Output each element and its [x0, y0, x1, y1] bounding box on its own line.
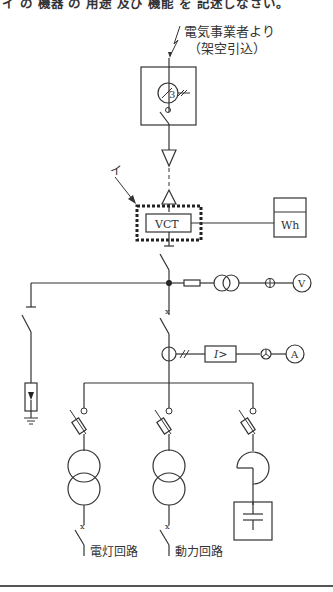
feeder-capacitor: [234, 383, 272, 540]
vct-label: VCT: [154, 218, 179, 231]
cable-head-upper-icon: [162, 150, 176, 166]
ground-icon: [24, 411, 38, 424]
vt-transformer-icon: [214, 275, 239, 291]
ct-count-label: 3: [169, 89, 175, 100]
voltmeter-label: V: [297, 278, 306, 289]
la-disconnector: [22, 315, 31, 332]
supply-label: 電気事業者より: [184, 24, 275, 39]
supply-type-label: （架空引込）: [188, 41, 266, 56]
svg-text:x: x: [165, 307, 170, 316]
divider: [0, 585, 333, 587]
ammeter-switch-icon: [261, 349, 271, 359]
ocr-label: I>: [213, 348, 228, 361]
vcb-switch: [160, 318, 169, 334]
pointer-label: イ: [110, 164, 122, 178]
feeder-power: x 動力回路: [153, 383, 223, 559]
vt-fuse: [184, 280, 200, 286]
power-circuit-label: 動力回路: [175, 544, 223, 559]
pointer-arrow: [115, 177, 133, 200]
lead-in-arrow-icon: [168, 26, 180, 58]
voltage-switch-icon: [265, 278, 275, 288]
ammeter-label: A: [290, 349, 299, 360]
lightning-arrester-icon: [25, 383, 37, 411]
watthour-meter: Wh: [274, 198, 306, 237]
cable-head-lower-icon: [162, 190, 176, 204]
lbs-switch: [160, 254, 169, 270]
lighting-circuit-label: 電灯回路: [90, 544, 138, 559]
single-line-diagram: 電気事業者より （架空引込） 3 イ VCT Wh x: [0, 0, 333, 592]
wh-label: Wh: [281, 219, 299, 232]
svg-text:x: x: [165, 522, 170, 531]
svg-text:x: x: [80, 522, 85, 531]
feeder-lighting: x 電灯回路: [68, 383, 138, 559]
